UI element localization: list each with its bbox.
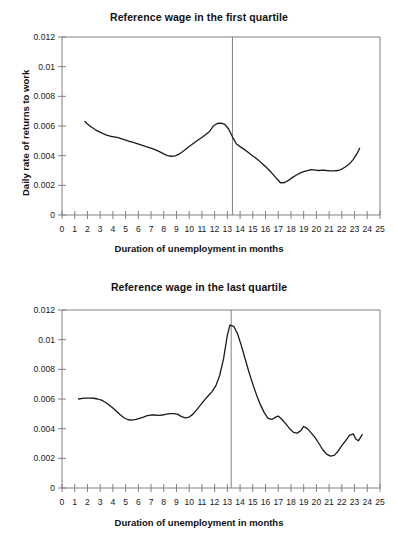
x-tick-label: 4 <box>110 224 115 234</box>
x-tick-label: 19 <box>299 224 309 234</box>
x-tick-label: 17 <box>273 224 283 234</box>
x-tick-label: 22 <box>337 497 347 507</box>
x-tick-label: 2 <box>85 497 90 507</box>
x-tick-label: 13 <box>223 497 233 507</box>
x-tick-label: 12 <box>210 497 220 507</box>
x-tick-label: 13 <box>223 224 233 234</box>
x-tick-label: 17 <box>273 497 283 507</box>
x-tick-label: 11 <box>197 224 206 234</box>
x-tick-label: 20 <box>312 224 322 234</box>
x-tick-label: 14 <box>235 224 245 234</box>
x-tick-label: 6 <box>136 224 141 234</box>
x-tick-label: 5 <box>123 497 128 507</box>
x-tick-label: 25 <box>375 224 385 234</box>
x-tick-label: 18 <box>286 224 296 234</box>
x-tick-label: 16 <box>261 224 271 234</box>
x-tick-label: 9 <box>174 497 179 507</box>
x-tick-label: 10 <box>184 497 194 507</box>
x-tick-label: 20 <box>312 497 322 507</box>
y-tick-label: 0.004 <box>33 424 55 434</box>
series-line <box>85 122 360 183</box>
x-tick-label: 1 <box>72 224 77 234</box>
y-tick-label: 0.004 <box>33 151 55 161</box>
y-tick-label: 0.008 <box>33 364 55 374</box>
y-axis-title-first-quartile: Daily rate of returns to work <box>20 70 31 196</box>
x-axis-title-last-quartile: Duration of unemployment in months <box>0 517 398 528</box>
chart-svg-first-quartile: 00.0020.0040.0060.0080.010.0120123456789… <box>0 0 398 268</box>
x-tick-label: 14 <box>235 497 245 507</box>
y-tick-label: 0.01 <box>38 335 55 345</box>
chart-svg-last-quartile: 00.0020.0040.0060.0080.010.0120123456789… <box>0 268 398 541</box>
x-tick-label: 15 <box>248 497 258 507</box>
y-tick-label: 0.01 <box>38 62 55 72</box>
x-tick-label: 23 <box>350 497 360 507</box>
plot-area-last-quartile: 00.0020.0040.0060.0080.010.0120123456789… <box>0 268 398 541</box>
y-tick-label: 0 <box>50 210 55 220</box>
x-tick-label: 4 <box>110 497 115 507</box>
x-tick-label: 19 <box>299 497 309 507</box>
x-tick-label: 6 <box>136 497 141 507</box>
x-tick-label: 1 <box>72 497 77 507</box>
y-tick-label: 0.002 <box>33 453 55 463</box>
x-tick-label: 7 <box>149 497 154 507</box>
x-axis-title-first-quartile: Duration of unemployment in months <box>0 243 398 254</box>
chart-figure-last-quartile: Reference wage in the last quartile 00.0… <box>0 268 398 541</box>
x-tick-label: 3 <box>98 224 103 234</box>
x-tick-label: 10 <box>184 224 194 234</box>
chart-figure-first-quartile: Reference wage in the first quartile 00.… <box>0 0 398 268</box>
x-tick-label: 23 <box>350 224 360 234</box>
x-tick-label: 24 <box>362 224 372 234</box>
series-line <box>79 325 363 456</box>
x-tick-label: 2 <box>85 224 90 234</box>
x-tick-label: 21 <box>324 224 334 234</box>
x-tick-label: 24 <box>362 497 372 507</box>
x-tick-label: 0 <box>60 224 65 234</box>
y-tick-label: 0 <box>50 483 55 493</box>
x-tick-label: 8 <box>161 497 166 507</box>
y-tick-label: 0.008 <box>33 91 55 101</box>
x-tick-label: 16 <box>261 497 271 507</box>
y-tick-label: 0.012 <box>33 305 55 315</box>
y-tick-label: 0.006 <box>33 394 55 404</box>
x-tick-label: 9 <box>174 224 179 234</box>
plot-area-first-quartile: 00.0020.0040.0060.0080.010.0120123456789… <box>0 0 398 268</box>
x-tick-label: 18 <box>286 497 296 507</box>
y-tick-label: 0.006 <box>33 121 55 131</box>
x-tick-label: 15 <box>248 224 258 234</box>
x-tick-label: 22 <box>337 224 347 234</box>
x-tick-label: 5 <box>123 224 128 234</box>
x-tick-label: 21 <box>324 497 334 507</box>
x-tick-label: 8 <box>161 224 166 234</box>
x-tick-label: 3 <box>98 497 103 507</box>
x-tick-label: 0 <box>60 497 65 507</box>
y-tick-label: 0.002 <box>33 180 55 190</box>
figure-page: Reference wage in the first quartile 00.… <box>0 0 398 541</box>
x-tick-label: 25 <box>375 497 385 507</box>
x-tick-label: 11 <box>197 497 206 507</box>
x-tick-label: 7 <box>149 224 154 234</box>
x-tick-label: 12 <box>210 224 220 234</box>
y-tick-label: 0.012 <box>33 32 55 42</box>
